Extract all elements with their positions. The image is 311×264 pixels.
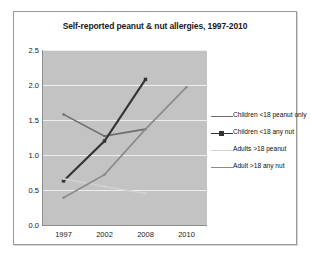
series-layer <box>43 50 207 225</box>
y-axis-tick-label: 1.0 <box>29 151 39 160</box>
series-marker <box>103 139 106 142</box>
series-line <box>64 87 187 198</box>
series-marker <box>103 174 105 176</box>
series-marker <box>144 192 146 194</box>
series-marker <box>62 113 64 115</box>
series-marker <box>62 178 64 180</box>
series-line <box>64 114 146 136</box>
y-axis-tick-label: 0.0 <box>29 221 39 230</box>
x-axis-tick-label: 2008 <box>137 230 154 239</box>
legend-item[interactable]: Adults >18 peanut <box>211 145 307 155</box>
series-line <box>64 79 146 180</box>
series-marker <box>185 86 187 88</box>
legend-item-label: Adults >18 peanut <box>233 145 286 153</box>
series-marker <box>62 197 64 199</box>
series-marker <box>103 135 105 137</box>
legend-marker-icon <box>211 146 233 155</box>
plot-area: 0.00.51.01.52.02.5 1997200220082010 <box>42 50 207 226</box>
legend-marker-icon <box>211 112 233 121</box>
legend-item-label: Children <18 peanut only <box>233 111 307 119</box>
series-marker <box>144 128 146 130</box>
y-axis-tick-label: 2.5 <box>29 46 39 55</box>
chart-title: Self-reported peanut & nut allergies, 19… <box>14 21 296 31</box>
legend-item[interactable]: Children <18 any nut <box>211 128 307 138</box>
y-axis-tick-label: 0.5 <box>29 186 39 195</box>
y-axis-tick-label: 1.5 <box>29 116 39 125</box>
y-axis-tick-label: 2.0 <box>29 81 39 90</box>
legend-item-label: Adult >18 any nut <box>233 162 285 170</box>
x-axis-tick-label: 2010 <box>178 230 195 239</box>
legend-item-label: Children <18 any nut <box>233 128 294 136</box>
series-marker <box>144 78 147 81</box>
legend-marker-icon <box>211 163 233 172</box>
legend-marker-icon <box>211 129 233 138</box>
legend-item[interactable]: Adult >18 any nut <box>211 162 307 172</box>
chart-legend: Children <18 peanut onlyChildren <18 any… <box>211 111 307 179</box>
x-axis-tick-label: 2002 <box>96 230 113 239</box>
x-axis-tick-label: 1997 <box>55 230 72 239</box>
chart-card: Self-reported peanut & nut allergies, 19… <box>13 11 297 245</box>
legend-item[interactable]: Children <18 peanut only <box>211 111 307 121</box>
series-marker <box>103 185 105 187</box>
